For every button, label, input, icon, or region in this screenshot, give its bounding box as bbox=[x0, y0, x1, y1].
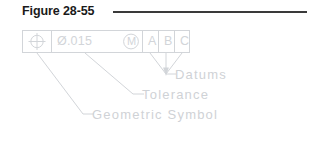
geometric-symbol-leader bbox=[37, 53, 94, 114]
callout-label-geometric-symbol: Geometric Symbol bbox=[92, 108, 218, 121]
figure-title-row: Figure 28-55 bbox=[22, 4, 312, 20]
tolerance-value-text: Ø.015 bbox=[57, 35, 92, 48]
datum-b-text: B bbox=[164, 35, 173, 48]
page-title: Figure 28-55 bbox=[22, 4, 94, 18]
technical-drawing: Ø.015 A B C M Datums Tolerance Geometric… bbox=[0, 20, 315, 145]
datum-a-text: A bbox=[148, 35, 157, 48]
position-symbol-icon bbox=[29, 33, 46, 50]
mmc-modifier-letter: M bbox=[127, 35, 136, 48]
figure-28-55: Figure 28-55 bbox=[0, 0, 315, 145]
tolerance-leader-line bbox=[85, 53, 133, 94]
datum-c-text: C bbox=[180, 35, 190, 48]
callout-label-tolerance: Tolerance bbox=[142, 88, 209, 101]
title-rule-divider bbox=[113, 11, 307, 13]
tolerance-leader bbox=[85, 53, 144, 94]
drawing-canvas bbox=[0, 20, 315, 145]
geometric-symbol-leader-line bbox=[37, 53, 83, 114]
datums-leader-from-a bbox=[150, 53, 166, 74]
callout-label-datums: Datums bbox=[175, 68, 227, 81]
